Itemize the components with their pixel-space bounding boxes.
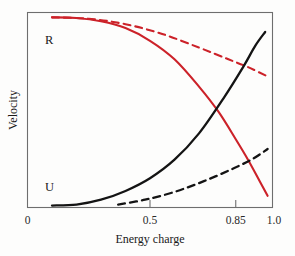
y-axis-title: Velocity <box>6 90 20 130</box>
curve-u-solid <box>52 32 265 206</box>
curve-u-dashed <box>118 149 267 205</box>
curve-label-u: U <box>45 180 54 194</box>
chart-figure: R U 0 0.5 0.85 1.0 Energy charge Velocit… <box>0 0 295 256</box>
xtick-label-0.5: 0.5 <box>143 214 158 226</box>
curve-label-r: R <box>45 33 54 47</box>
curve-r-solid <box>52 17 268 195</box>
chart-plot-area: R U 0 0.5 0.85 1.0 Energy charge Velocit… <box>0 0 295 256</box>
x-axis-title: Energy charge <box>115 232 184 246</box>
xtick-label-1.0: 1.0 <box>267 214 282 226</box>
xtick-label-0.85: 0.85 <box>226 214 246 226</box>
xtick-label-0: 0 <box>25 214 31 226</box>
